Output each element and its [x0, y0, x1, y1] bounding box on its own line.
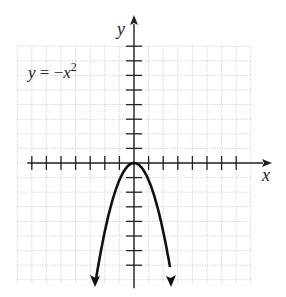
axes — [27, 15, 272, 288]
y-axis-label: y — [115, 19, 125, 39]
parabola-graph: y = −x2 y x — [0, 0, 286, 297]
x-axis-label: x — [261, 165, 270, 185]
equation-label: y = −x2 — [26, 60, 77, 82]
